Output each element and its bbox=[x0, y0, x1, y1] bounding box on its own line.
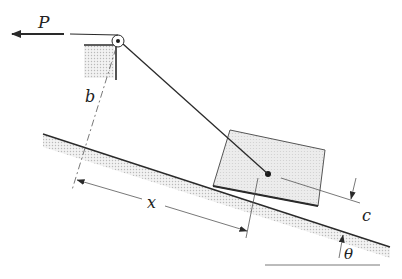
force-label: P bbox=[37, 12, 50, 32]
pulley bbox=[112, 35, 124, 47]
theta-label: θ bbox=[344, 245, 353, 263]
x-arrow-right-icon bbox=[165, 206, 247, 231]
pulley-support bbox=[84, 45, 117, 80]
incline-pulley-diagram: P b x c θ bbox=[0, 0, 402, 279]
c-arrow-top-icon bbox=[351, 178, 356, 199]
support-hatch bbox=[84, 45, 114, 78]
pulley-axle bbox=[116, 39, 120, 43]
x-arrow-left-icon bbox=[77, 180, 142, 199]
x-label: x bbox=[147, 193, 156, 212]
b-label: b bbox=[85, 87, 95, 106]
force-p: P bbox=[12, 12, 64, 34]
cable-horizontal bbox=[70, 34, 118, 35]
c-label: c bbox=[362, 206, 371, 225]
cable-to-block bbox=[123, 44, 268, 174]
incline-surface-line bbox=[43, 134, 390, 247]
